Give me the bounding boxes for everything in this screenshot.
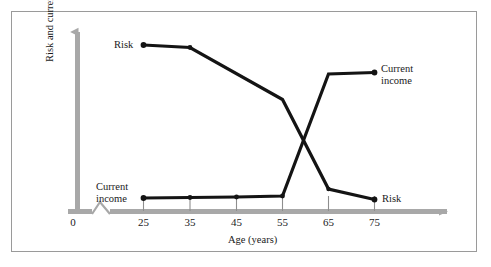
x-tick-label-65: 65 <box>314 216 344 228</box>
x-axis-title: Age (years) <box>228 234 277 246</box>
y-axis-title: Risk and current income <box>44 0 58 62</box>
series-label-current-income-left: Current income <box>96 181 128 205</box>
data-point-risk-65 <box>326 187 330 191</box>
data-point-risk-35 <box>188 45 193 50</box>
data-point-income-35 <box>188 195 193 200</box>
x-tick-label-35: 35 <box>175 216 205 228</box>
data-point-income-45 <box>234 195 239 200</box>
x-tick-label-25: 25 <box>129 216 159 228</box>
series-risk <box>141 42 378 202</box>
data-point-income-25 <box>141 195 147 201</box>
x-tick-label-75: 75 <box>360 216 390 228</box>
data-point-risk-25 <box>141 42 147 48</box>
series-label-current-income-right-line2: income <box>381 75 412 86</box>
series-label-current-income-right: Current income <box>381 63 413 87</box>
data-point-income-75 <box>372 70 378 76</box>
data-point-income-55 <box>280 194 285 199</box>
series-label-risk-left: Risk <box>114 39 133 51</box>
x-axis-origin-label: 0 <box>63 216 83 228</box>
x-tick-label-45: 45 <box>222 216 252 228</box>
series-label-current-income-left-line1: Current <box>96 181 128 192</box>
x-tick-label-55: 55 <box>268 216 298 228</box>
series-label-current-income-left-line2: income <box>96 193 127 204</box>
series-current-income <box>141 70 378 201</box>
series-label-risk-right: Risk <box>382 193 401 205</box>
data-point-risk-75 <box>372 197 378 203</box>
chart-figure: Risk and current income 0 25 35 45 55 65… <box>0 0 491 267</box>
series-label-current-income-right-line1: Current <box>381 63 413 74</box>
